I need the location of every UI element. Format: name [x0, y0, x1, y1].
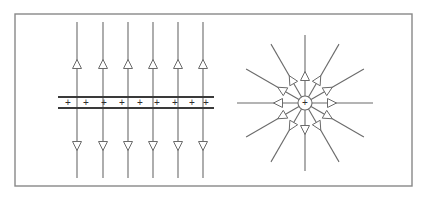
plate-charge-symbol: + [137, 97, 143, 108]
figure-container: +++++++++ + [0, 0, 426, 201]
plate-charge-symbol: + [172, 97, 178, 108]
plate-charge-symbol: + [189, 97, 195, 108]
figure-background [0, 0, 426, 201]
plate-charge-symbol: + [101, 97, 107, 108]
plate-charge-symbol: + [203, 97, 209, 108]
point-charge-symbol: + [302, 97, 308, 108]
plate-charge-symbol: + [65, 97, 71, 108]
plate-charge-symbol: + [154, 97, 160, 108]
field-diagram-svg: +++++++++ + [0, 0, 426, 201]
plate-charge-symbol: + [83, 97, 89, 108]
plate-charge-symbol: + [119, 97, 125, 108]
